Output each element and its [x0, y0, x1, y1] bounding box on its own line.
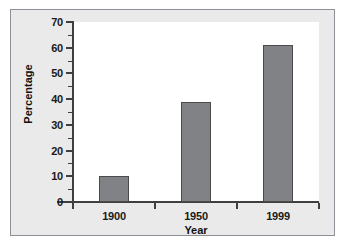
y-axis-title: Percentage [22, 44, 34, 144]
y-axis-major-tick [66, 47, 72, 49]
x-axis-title: Year [73, 224, 319, 236]
y-axis-minor-tick [68, 112, 72, 113]
y-axis-minor-tick [68, 189, 72, 190]
y-axis-minor-tick [68, 163, 72, 164]
y-axis-major-tick [66, 72, 72, 74]
y-axis-major-tick [66, 175, 72, 177]
x-axis-tick [154, 203, 156, 209]
bar [181, 102, 211, 202]
y-axis-tick-label: 10 [19, 171, 63, 182]
y-axis-minor-tick [68, 61, 72, 62]
y-axis-major-tick [66, 21, 72, 23]
x-axis-tick [72, 203, 74, 209]
y-axis-tick-label: 0 [19, 197, 63, 208]
y-axis-tick-label: 20 [19, 146, 63, 157]
y-axis-minor-tick [68, 138, 72, 139]
y-axis-major-tick [66, 124, 72, 126]
figure-frame: 010203040506070 190019501999 Percentage … [10, 9, 335, 236]
chart-figure: 010203040506070 190019501999 Percentage … [0, 0, 348, 247]
y-axis-major-tick [66, 98, 72, 100]
y-axis-minor-tick [68, 35, 72, 36]
y-axis-minor-tick [68, 86, 72, 87]
bar-series [73, 22, 319, 202]
x-axis-tick-label: 1999 [248, 211, 308, 222]
x-axis-tick [236, 203, 238, 209]
figure-background: 010203040506070 190019501999 Percentage … [11, 10, 334, 235]
bar [99, 176, 129, 202]
y-axis-major-tick [66, 150, 72, 152]
x-axis-tick-label: 1950 [166, 211, 226, 222]
y-axis-tick-label: 70 [19, 17, 63, 28]
bar [263, 45, 293, 202]
x-axis-tick-label: 1900 [84, 211, 144, 222]
x-axis-tick [318, 203, 320, 209]
